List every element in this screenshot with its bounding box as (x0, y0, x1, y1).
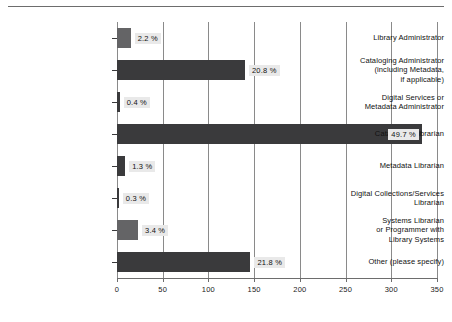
x-tick-label-350: 350 (430, 285, 443, 294)
x-tick-label-200: 200 (293, 285, 306, 294)
category-label-column (0, 22, 117, 278)
category-label-0: Library Administrator (335, 33, 444, 43)
value-label-5: 0.3 % (123, 193, 149, 204)
x-tick-label-150: 150 (248, 285, 261, 294)
x-tick-150 (254, 278, 255, 282)
value-label-2: 0.4 % (124, 97, 150, 108)
gridline-150 (254, 22, 255, 278)
gridline-200 (300, 22, 301, 278)
category-label-7: Other (please specify) (335, 257, 444, 267)
bar-0 (117, 28, 131, 48)
x-tick-label-300: 300 (385, 285, 398, 294)
category-tick-6 (112, 230, 117, 231)
category-tick-2 (112, 102, 117, 103)
category-tick-0 (112, 38, 117, 39)
x-tick-100 (208, 278, 209, 282)
x-tick-300 (391, 278, 392, 282)
bar-4 (117, 156, 125, 176)
x-tick-label-0: 0 (115, 285, 119, 294)
x-tick-50 (163, 278, 164, 282)
category-tick-5 (112, 198, 117, 199)
x-axis-line (117, 278, 437, 279)
value-label-0: 2.2 % (135, 33, 161, 44)
category-tick-7 (112, 262, 117, 263)
category-label-5: Digital Collections/Services Librarian (335, 189, 444, 208)
bar-2 (117, 92, 120, 112)
value-label-7: 21.8 % (254, 257, 285, 268)
category-tick-1 (112, 70, 117, 71)
x-tick-0 (117, 278, 118, 282)
bar-5 (117, 188, 119, 208)
category-label-1: Cataloging Administrator (including Meta… (335, 56, 444, 85)
x-tick-label-250: 250 (339, 285, 352, 294)
category-tick-3 (112, 134, 117, 135)
category-label-6: Systems Librarian or Programmer with Lib… (335, 216, 444, 245)
value-label-4: 1.3 % (129, 161, 155, 172)
bar-6 (117, 220, 138, 240)
bar-1 (117, 60, 245, 80)
bar-7 (117, 252, 250, 272)
bar-chart-figure: Library Administrator2.2 %Cataloging Adm… (0, 0, 452, 322)
value-label-3: 49.7 % (388, 129, 419, 140)
x-tick-250 (346, 278, 347, 282)
category-tick-4 (112, 166, 117, 167)
value-label-1: 20.8 % (249, 65, 280, 76)
x-tick-350 (437, 278, 438, 282)
x-tick-label-100: 100 (202, 285, 215, 294)
top-divider-rule (8, 6, 444, 7)
category-label-4: Metadata Librarian (335, 161, 444, 171)
x-tick-label-50: 50 (158, 285, 167, 294)
category-label-2: Digital Services or Metadata Administrat… (335, 93, 444, 112)
value-label-6: 3.4 % (142, 225, 168, 236)
x-tick-200 (300, 278, 301, 282)
